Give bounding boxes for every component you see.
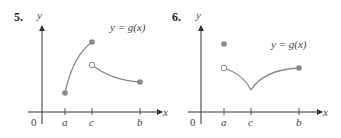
closed-point	[62, 90, 68, 96]
tick-label-b: b	[296, 116, 302, 128]
tick-label-a: a	[221, 116, 227, 128]
x-axis-label: x	[322, 106, 328, 118]
function-label: y = g(x)	[109, 21, 146, 34]
closed-point	[296, 65, 302, 71]
tick-label-b: b	[137, 116, 143, 128]
curve-segment-2	[251, 68, 299, 90]
function-label: y = g(x)	[270, 38, 307, 51]
tick-label-a: a	[62, 116, 68, 128]
closed-point	[89, 39, 95, 45]
tick-label-c: c	[89, 116, 94, 128]
open-point	[89, 62, 95, 68]
origin-label: 0	[190, 116, 196, 128]
curve-segment-2	[92, 65, 140, 82]
open-point	[221, 65, 227, 71]
plot-5: 5. y x 0 a c b y = g(x)	[14, 9, 168, 128]
curve-segment-1	[224, 68, 251, 90]
figure: 5. y x 0 a c b y = g(x) 6. y x 0 a c b y…	[0, 0, 341, 138]
problem-number: 5.	[14, 10, 23, 24]
y-axis-label: y	[195, 9, 201, 21]
problem-number: 6.	[172, 10, 181, 24]
closed-point	[137, 79, 143, 85]
plot-6: 6. y x 0 a c b y = g(x)	[172, 9, 328, 128]
origin-label: 0	[31, 116, 37, 128]
y-axis-label: y	[36, 9, 42, 21]
x-axis-label: x	[162, 106, 168, 118]
curve-segment-1	[65, 42, 92, 93]
tick-label-c: c	[248, 116, 253, 128]
closed-point	[221, 41, 227, 47]
